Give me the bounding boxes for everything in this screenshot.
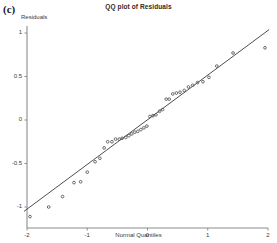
scatter-point [143, 126, 146, 129]
scatter-point [79, 180, 82, 183]
scatter-point [103, 146, 106, 149]
axis-ticks [25, 33, 269, 231]
scatter-point [155, 113, 158, 116]
scatter-point [191, 84, 194, 87]
scatter-point [127, 134, 130, 137]
scatter-point [146, 125, 149, 128]
scatter-point [47, 206, 50, 209]
y-tick-label: -0.5 [0, 160, 22, 166]
x-tick-label: 1 [196, 232, 220, 238]
scatter-point [165, 98, 168, 101]
scatter-point [140, 128, 143, 131]
y-tick-label: 1 [0, 29, 22, 35]
scatter-point [118, 138, 121, 141]
scatter-point [106, 140, 109, 143]
scatter-point [187, 86, 190, 89]
scatter-point [94, 160, 97, 163]
scatter-point [183, 89, 186, 92]
scatter-point [137, 130, 140, 133]
scatter-point [179, 91, 182, 94]
x-tick-label: -1 [75, 232, 99, 238]
scatter-point [124, 136, 127, 139]
x-tick-label: 2 [256, 232, 277, 238]
x-tick-label: -2 [15, 232, 39, 238]
y-tick-label: -1 [0, 203, 22, 209]
scatter-point [86, 171, 89, 174]
scatter-point [208, 76, 211, 79]
scatter-point [99, 157, 102, 160]
scatter-points [29, 46, 267, 217]
scatter-point [73, 181, 76, 184]
scatter-point [161, 108, 164, 111]
scatter-point [175, 92, 178, 95]
scatter-point [232, 52, 235, 55]
scatter-point [168, 98, 171, 101]
y-tick-label: 0 [0, 116, 22, 122]
scatter-point [29, 215, 32, 218]
y-tick-label: 0.5 [0, 73, 22, 79]
figure-panel: (c) QQ plot of Residuals Residuals Norma… [0, 0, 277, 243]
scatter-point [133, 131, 136, 134]
scatter-point [130, 133, 133, 136]
scatter-point [61, 195, 64, 198]
scatter-point [215, 65, 218, 68]
scatter-point [264, 46, 267, 49]
reference-line [24, 30, 269, 212]
scatter-point [114, 138, 117, 141]
scatter-point [171, 93, 174, 96]
scatter-point [149, 115, 152, 118]
scatter-point [202, 80, 205, 83]
scatter-point [111, 140, 114, 143]
qq-plot-canvas [0, 0, 277, 243]
x-tick-label: 0 [136, 232, 160, 238]
